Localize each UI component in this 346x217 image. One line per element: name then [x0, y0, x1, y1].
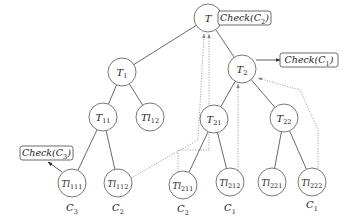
- edge-t21-tl211: [189, 132, 208, 173]
- check-c1-box: Check(C1): [256, 53, 338, 68]
- cost-label-tl212: C1: [224, 202, 236, 216]
- leaf-cost-labels: C3C2C2C1C1: [66, 199, 318, 217]
- cost-label-tl211: C2: [177, 203, 189, 217]
- node-tl111: Tl111: [58, 169, 86, 197]
- edge-t21-tl212: [217, 133, 226, 169]
- edge-t22-tl221: [275, 132, 282, 168]
- node-tl211: Tl211: [169, 171, 197, 199]
- node-t11: T11: [89, 103, 117, 131]
- tree-nodes: TT1T2T11Tl12T21T22Tl111Tl112Tl211Tl212Tl…: [58, 4, 326, 199]
- node-tl221: Tl221: [258, 168, 286, 196]
- edge-t2-t21: [221, 81, 235, 107]
- edge-t11-tl112: [106, 131, 115, 170]
- edge-t1-t11: [108, 85, 116, 104]
- check-c3-box: Check(C3): [20, 146, 73, 172]
- node-tl212: Tl212: [216, 168, 244, 196]
- check-arrow: [48, 162, 62, 172]
- dotted-path-from-tl211: [178, 34, 209, 172]
- edge-t22-tl222: [290, 131, 307, 169]
- edge-t11-tl111: [78, 130, 97, 171]
- diagram-svg: TT1T2T11Tl12T21T22Tl111Tl112Tl211Tl212Tl…: [0, 0, 346, 217]
- cost-label-tl222: C1: [306, 199, 318, 213]
- node-tl112: Tl112: [104, 169, 132, 197]
- edge-t1-tl12: [129, 84, 142, 105]
- edge-t2-t22: [251, 80, 275, 108]
- tree-edges: [78, 25, 306, 172]
- edge-t-t1: [134, 25, 196, 64]
- check-c2-box: Check(C2): [218, 11, 271, 26]
- node-tl222: Tl222: [298, 168, 326, 196]
- cost-label-tl111: C3: [66, 202, 78, 216]
- node-t22: T22: [270, 104, 298, 132]
- cost-label-tl112: C2: [112, 202, 124, 216]
- tree-diagram: TT1T2T11Tl12T21T22Tl111Tl112Tl211Tl212Tl…: [0, 0, 346, 217]
- node-t2: T2: [228, 55, 256, 83]
- check-boxes: Check(C2)Check(C1)Check(C3): [20, 11, 338, 172]
- node-t1: T1: [108, 58, 136, 86]
- node-tl12: Tl12: [136, 103, 164, 131]
- edge-t-t2: [216, 30, 234, 58]
- node-t21: T21: [200, 105, 228, 133]
